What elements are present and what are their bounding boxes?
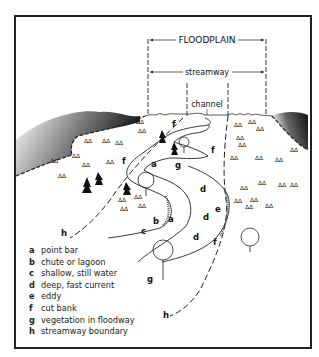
svg-text:ᐃᐃ: ᐃᐃ: [234, 197, 243, 204]
svg-text:ᐃᐃ: ᐃᐃ: [120, 205, 129, 212]
label-h: h: [61, 228, 67, 238]
label-a: a: [168, 214, 174, 224]
svg-text:ᐃᐃ: ᐃᐃ: [290, 146, 299, 153]
svg-text:ᐃᐃ: ᐃᐃ: [248, 118, 257, 125]
svg-text:ᐃᐃ: ᐃᐃ: [134, 193, 143, 200]
label-f: f: [213, 237, 217, 247]
svg-text:ᐃᐃ: ᐃᐃ: [106, 158, 115, 165]
svg-text:ᐃᐃ: ᐃᐃ: [84, 137, 93, 144]
streamway-label: streamway: [185, 68, 229, 77]
svg-text:ᐃᐃ: ᐃᐃ: [115, 139, 124, 146]
label-f: f: [172, 119, 176, 129]
legend-item: eeddy: [29, 291, 135, 303]
svg-text:ᐃᐃ: ᐃᐃ: [236, 134, 245, 141]
svg-text:ᐃᐃ: ᐃᐃ: [230, 154, 239, 161]
svg-text:ᐃᐃ: ᐃᐃ: [72, 152, 81, 159]
legend-item: hstreamway boundary: [29, 326, 135, 338]
label-d: d: [200, 184, 206, 194]
svg-text:ᐃᐃ: ᐃᐃ: [258, 179, 267, 186]
streamway-boundary-right: [170, 116, 228, 316]
svg-text:ᐃᐃ: ᐃᐃ: [275, 156, 284, 163]
label-d: d: [193, 232, 199, 242]
legend-item: cshallow, still water: [29, 268, 135, 280]
label-h: h: [163, 310, 169, 320]
svg-text:ᐃᐃ: ᐃᐃ: [138, 202, 147, 209]
svg-text:ᐃᐃ: ᐃᐃ: [240, 184, 249, 191]
svg-text:ᐃᐃ: ᐃᐃ: [278, 181, 287, 188]
label-f: f: [122, 156, 126, 166]
legend: apoint bar bchute or lagoon cshallow, st…: [29, 245, 135, 338]
label-f: f: [211, 145, 215, 155]
svg-text:ᐃᐃ: ᐃᐃ: [238, 141, 247, 148]
svg-text:ᐃᐃ: ᐃᐃ: [265, 202, 274, 209]
legend-item: bchute or lagoon: [29, 257, 135, 269]
svg-text:ᐃᐃ: ᐃᐃ: [50, 157, 59, 164]
svg-text:ᐃᐃ: ᐃᐃ: [290, 181, 299, 188]
label-a: a: [151, 159, 157, 169]
legend-item: apoint bar: [29, 245, 135, 257]
legend-item: fcut bank: [29, 303, 135, 315]
svg-text:ᐃᐃ: ᐃᐃ: [250, 196, 259, 203]
svg-text:ᐃᐃ: ᐃᐃ: [256, 125, 265, 132]
svg-text:ᐃᐃ: ᐃᐃ: [58, 172, 67, 179]
legend-item: gvegetation in floodway: [29, 315, 135, 327]
channel-label: channel: [191, 100, 223, 109]
svg-text:ᐃᐃ: ᐃᐃ: [234, 121, 243, 128]
svg-text:ᐃᐃ: ᐃᐃ: [118, 196, 127, 203]
label-d: d: [203, 212, 209, 222]
floodplain-label: FLOODPLAIN: [178, 35, 235, 45]
svg-text:ᐃᐃ: ᐃᐃ: [136, 118, 145, 125]
svg-text:ᐃᐃ: ᐃᐃ: [82, 161, 91, 168]
label-g: g: [175, 160, 181, 170]
right-hill: [272, 112, 308, 150]
conifer-trees: [82, 130, 178, 195]
river-bank-outer: [108, 118, 210, 238]
label-b: b: [153, 216, 159, 226]
svg-text:ᐃᐃ: ᐃᐃ: [255, 154, 264, 161]
label-c: c: [141, 226, 146, 236]
svg-text:ᐃᐃ: ᐃᐃ: [245, 203, 254, 210]
label-g: g: [147, 274, 153, 284]
legend-item: ddeep, fast current: [29, 280, 135, 292]
svg-text:ᐃᐃ: ᐃᐃ: [138, 127, 147, 134]
svg-text:ᐃᐃ: ᐃᐃ: [102, 137, 111, 144]
label-e: e: [215, 204, 221, 214]
